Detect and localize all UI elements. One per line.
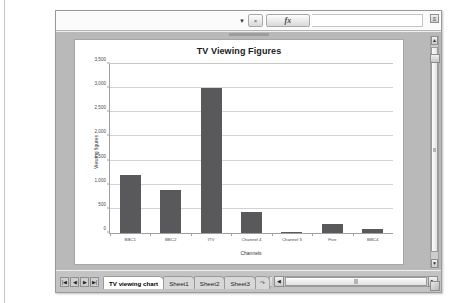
y-tick-label: 3,500 bbox=[95, 57, 107, 62]
bar[interactable] bbox=[160, 190, 181, 233]
sheet-tab[interactable]: Sheet3 bbox=[224, 276, 256, 289]
insert-function-icon[interactable]: fx bbox=[266, 14, 310, 27]
sheet-tab[interactable]: Sheet2 bbox=[194, 276, 226, 289]
y-axis-title: Viewing figures bbox=[93, 135, 99, 169]
vertical-scrollbar-thumb[interactable] bbox=[431, 47, 438, 252]
bar-slot: BBC2 bbox=[150, 64, 190, 233]
scrollbar-grip bbox=[433, 148, 436, 152]
bar-series: BBC1BBC2ITVChannel 4Channel 5FiveBBC4 bbox=[110, 64, 393, 233]
bar-slot: Channel 5 bbox=[272, 64, 312, 233]
window-top-nub bbox=[229, 33, 269, 36]
x-tick-mark bbox=[110, 233, 111, 236]
x-tick-mark bbox=[150, 233, 151, 236]
x-tick-mark bbox=[312, 233, 313, 236]
sheet-tabs: TV viewing chartSheet1Sheet2Sheet3↷ bbox=[103, 275, 269, 289]
x-tick-label: Channel 4 bbox=[241, 237, 261, 242]
y-tick-label: 0 bbox=[103, 226, 106, 231]
x-tick-mark bbox=[272, 233, 273, 236]
y-tick-label: 1,000 bbox=[95, 177, 107, 182]
page-edge bbox=[4, 0, 5, 303]
y-tick-label: 2,500 bbox=[95, 105, 107, 110]
spreadsheet-window: ▼ × fx ≡ TV Viewing Figures Viewing figu… bbox=[55, 10, 442, 293]
bar-slot: BBC4 bbox=[353, 64, 393, 233]
formula-bar-expand-icon[interactable]: ≡ bbox=[430, 14, 439, 23]
formula-bar: ▼ × fx ≡ bbox=[56, 11, 441, 31]
new-sheet-button[interactable]: ↷ bbox=[255, 276, 270, 289]
bar-slot: ITV bbox=[191, 64, 231, 233]
chart-sheet[interactable]: TV Viewing Figures Viewing figures 05001… bbox=[74, 39, 404, 265]
x-tick-label: Channel 5 bbox=[282, 237, 302, 242]
x-tick-mark bbox=[231, 233, 232, 236]
bar-slot: BBC1 bbox=[110, 64, 150, 233]
sheet-tab[interactable]: TV viewing chart bbox=[103, 276, 164, 289]
bar[interactable] bbox=[201, 88, 222, 233]
bar[interactable] bbox=[362, 229, 383, 233]
y-tick-label: 500 bbox=[98, 201, 106, 206]
screen: ▼ × fx ≡ TV Viewing Figures Viewing figu… bbox=[0, 0, 454, 303]
nav-next-sheet-icon[interactable]: ▶ bbox=[80, 277, 89, 287]
bar[interactable] bbox=[241, 212, 262, 233]
scroll-left-icon[interactable]: ◀ bbox=[274, 276, 284, 287]
x-tick-label: ITV bbox=[208, 237, 215, 242]
y-tick-label: 1,500 bbox=[95, 153, 107, 158]
x-tick-label: BBC2 bbox=[165, 237, 176, 242]
scroll-up-icon[interactable]: ▲ bbox=[431, 36, 438, 45]
bar[interactable] bbox=[322, 224, 343, 233]
nav-prev-sheet-icon[interactable]: ◀ bbox=[70, 277, 79, 287]
x-tick-mark bbox=[353, 233, 354, 236]
x-tick-label: BBC4 bbox=[367, 237, 378, 242]
x-axis-title: Channels bbox=[109, 250, 393, 256]
bar-slot: Channel 4 bbox=[231, 64, 271, 233]
y-tick-label: 3,000 bbox=[95, 81, 107, 86]
x-tick-mark bbox=[191, 233, 192, 236]
nav-last-sheet-icon[interactable]: ▶| bbox=[90, 277, 99, 287]
y-tick-label: 2,000 bbox=[95, 129, 107, 134]
sheet-tab-bar: |◀ ◀ ▶ ▶| TV viewing chartSheet1Sheet2Sh… bbox=[56, 270, 441, 292]
bar[interactable] bbox=[281, 232, 302, 233]
chart-workspace: TV Viewing Figures Viewing figures 05001… bbox=[56, 31, 441, 271]
x-tick-label: Five bbox=[328, 237, 336, 242]
window-split-handle[interactable] bbox=[430, 54, 440, 63]
plot-frame: 05001,0001,5002,0002,5003,0003,500 BBC1B… bbox=[109, 64, 393, 234]
scrollbar-grip bbox=[354, 279, 358, 284]
sheet-tab[interactable]: Sheet1 bbox=[163, 276, 195, 289]
plot-area: 05001,0001,5002,0002,5003,0003,500 BBC1B… bbox=[109, 64, 393, 234]
x-tick-label: BBC1 bbox=[124, 237, 135, 242]
vertical-scrollbar[interactable]: ▲ ▼ bbox=[430, 36, 439, 268]
formula-input[interactable] bbox=[312, 14, 423, 27]
sheet-nav-buttons: |◀ ◀ ▶ ▶| bbox=[60, 277, 99, 287]
horizontal-scrollbar[interactable]: ◀ ▶ bbox=[274, 276, 438, 287]
bar[interactable] bbox=[120, 175, 141, 233]
nav-first-sheet-icon[interactable]: |◀ bbox=[60, 277, 69, 287]
chart-title: TV Viewing Figures bbox=[75, 46, 403, 56]
tab-bar-filler bbox=[269, 276, 272, 287]
window-resize-corner[interactable] bbox=[430, 281, 440, 291]
scroll-down-icon[interactable]: ▼ bbox=[431, 259, 438, 268]
name-box-dropdown-icon[interactable]: ▼ bbox=[239, 18, 245, 24]
bar-slot: Five bbox=[312, 64, 352, 233]
cancel-button[interactable]: × bbox=[248, 14, 263, 27]
horizontal-scrollbar-thumb[interactable] bbox=[285, 277, 427, 286]
